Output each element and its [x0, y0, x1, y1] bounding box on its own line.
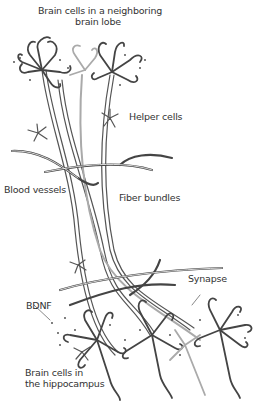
label-synapse: Synapse: [188, 273, 227, 284]
top-neuron-gray: [70, 45, 97, 75]
label-helper-cells: Helper cells: [129, 111, 182, 122]
label-bdnf: BDNF: [26, 300, 52, 311]
bottom-neuron-right: [195, 298, 252, 398]
label-bottom-cells-line2: the hippocampus: [25, 378, 104, 389]
label-blood-vessels: Blood vessels: [4, 184, 66, 195]
label-bottom-cells: Brain cells in the hippocampus: [25, 367, 104, 389]
label-top-cells: Brain cells in a neighboring brain lobe: [38, 5, 158, 27]
helper-cells: [28, 109, 118, 360]
synapse-pointer: [192, 295, 200, 305]
neuron-diagram: Brain cells in a neighboring brain lobe …: [0, 0, 259, 403]
bottom-neuron-middle: [123, 300, 183, 398]
label-top-cells-line1: Brain cells in a neighboring: [38, 5, 158, 16]
label-top-cells-line2: brain lobe: [38, 16, 158, 27]
top-neuron-right: [92, 43, 142, 82]
label-bottom-cells-line1: Brain cells in: [25, 367, 104, 378]
top-neuron-left: [18, 37, 70, 87]
label-fiber-bundles: Fiber bundles: [119, 192, 180, 203]
